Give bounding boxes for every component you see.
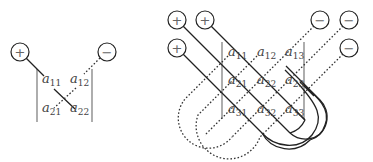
det3-plus-sign-3: + (168, 39, 186, 57)
det2-plus-sign: + (11, 43, 29, 61)
svg-text:a33: a33 (285, 101, 304, 118)
svg-text:a21: a21 (42, 100, 61, 117)
det3-plus-sign-1: + (168, 11, 186, 29)
det2-entry-a12: a12 (70, 71, 89, 88)
det3-entry-a11: a11 (228, 44, 247, 61)
det3-entry-a22: a22 (257, 72, 276, 89)
det3-entry-a21: a21 (228, 72, 247, 89)
svg-text:−: − (315, 13, 326, 28)
det3-positive-diagonals (183, 26, 327, 149)
svg-text:−: − (344, 41, 355, 56)
svg-text:a13: a13 (285, 44, 304, 61)
det3-entry-a13: a13 (285, 44, 304, 61)
svg-text:a22: a22 (70, 100, 89, 117)
svg-text:−: − (102, 45, 113, 60)
det3-entry-a32: a32 (257, 101, 276, 118)
svg-text:+: + (200, 13, 211, 28)
det3-entry-a33: a33 (285, 101, 304, 118)
svg-text:+: + (15, 45, 26, 60)
svg-text:−: − (344, 13, 355, 28)
svg-text:a12: a12 (257, 44, 276, 61)
svg-text:a22: a22 (257, 72, 276, 89)
det2-minus-sign: − (98, 43, 116, 61)
det3-diagram: + + + − − − a11 a12 a13 a21 a22 a23 a31 … (168, 11, 358, 159)
det3-minus-sign-1: − (311, 11, 329, 29)
svg-text:a11: a11 (42, 71, 61, 88)
svg-text:a32: a32 (257, 101, 276, 118)
svg-text:+: + (172, 13, 183, 28)
svg-text:+: + (172, 41, 183, 56)
det3-plus-sign-2: + (196, 11, 214, 29)
det3-entry-a31: a31 (228, 101, 247, 118)
svg-text:a21: a21 (228, 72, 247, 89)
det2-entry-a22: a22 (70, 100, 89, 117)
det2-entry-a11: a11 (42, 71, 61, 88)
det3-entry-a12: a12 (257, 44, 276, 61)
det3-minus-sign-2: − (340, 11, 358, 29)
det2-entry-a21: a21 (42, 100, 61, 117)
svg-text:a11: a11 (228, 44, 247, 61)
det3-minus-sign-3: − (340, 39, 358, 57)
svg-text:a12: a12 (70, 71, 89, 88)
det2-diagram: + − a11 a12 a21 a22 (11, 43, 116, 122)
determinant-diagrams: + − a11 a12 a21 a22 (0, 0, 373, 162)
svg-text:a31: a31 (228, 101, 247, 118)
